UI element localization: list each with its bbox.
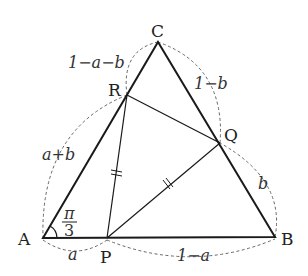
length-AP: a [68, 245, 78, 264]
label-Q: Q [224, 125, 238, 145]
segment-PQ [107, 143, 220, 238]
angle-arc-A [50, 226, 57, 238]
segment-RP [107, 95, 127, 238]
label-A: A [17, 229, 31, 249]
length-BQ: b [258, 174, 268, 193]
length-QC: 1−b [194, 74, 228, 93]
label-C: C [151, 21, 164, 41]
label-B: B [281, 229, 294, 249]
diagram-canvas: C A B P Q R a 1−a b 1−b 1−a−b a+b π 3 [0, 0, 308, 276]
angle-denominator: 3 [64, 221, 74, 240]
label-R: R [108, 80, 122, 100]
length-RA: a+b [42, 145, 75, 164]
length-PB: 1−a [177, 246, 210, 265]
length-CR: 1−a−b [68, 53, 125, 72]
segment-QR [127, 95, 220, 143]
geometry-diagram: C A B P Q R a 1−a b 1−b 1−a−b a+b π 3 [0, 0, 308, 276]
label-P: P [100, 247, 111, 267]
